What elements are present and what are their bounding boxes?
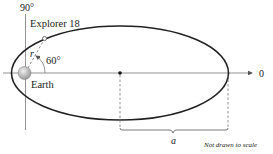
satellite-label: Explorer 18 xyxy=(30,18,80,29)
scale-note: Not drawn to scale xyxy=(203,141,257,149)
orbit-diagram: 90° Explorer 18 r 60° Earth 0 a Not draw… xyxy=(0,0,273,154)
center-point xyxy=(118,71,122,75)
angle-90-label: 90° xyxy=(20,2,34,13)
semi-major-axis-label: a xyxy=(171,135,176,146)
earth-label: Earth xyxy=(31,79,54,90)
earth-icon xyxy=(18,67,31,80)
radius-label: r xyxy=(30,48,34,59)
semi-major-brace xyxy=(120,128,228,133)
angle-60-label: 60° xyxy=(46,55,61,66)
satellite-icon xyxy=(43,37,47,41)
angle-0-label: 0 xyxy=(259,68,264,79)
angle-arc xyxy=(36,56,45,73)
